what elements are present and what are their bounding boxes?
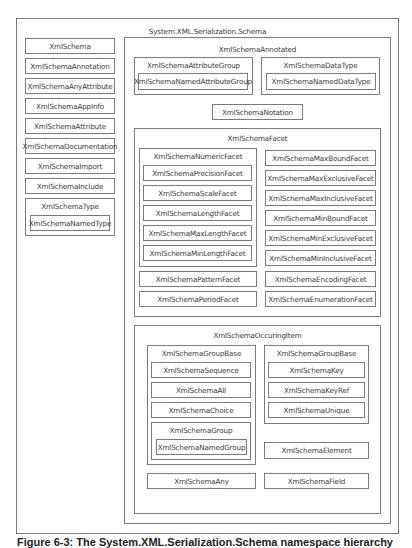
class-xmlschematype-title: XmlSchemaType bbox=[26, 202, 114, 211]
class-xmlschemagroupbase-left-title: XmlSchemaGroupBase bbox=[148, 349, 255, 358]
class-xmlschemanamedgroup: XmlSchemaNamedGroup bbox=[156, 439, 247, 455]
class-xmlschemaunique: XmlSchemaUnique bbox=[268, 402, 365, 418]
class-xmlschemafield: XmlSchemaField bbox=[264, 473, 369, 489]
class-xmlschemaattribute: XmlSchemaAttribute bbox=[25, 118, 115, 134]
class-xmlschemaany: XmlSchemaAny bbox=[147, 473, 256, 489]
class-xmlschemaannotated-title: XmlSchemaAnnotated bbox=[125, 45, 390, 54]
class-xmlschemanameddatatype: XmlSchemaNamedDataType bbox=[266, 73, 376, 90]
class-xmlschemamininclusivefacet: XmlSchemaMinInclusiveFacet bbox=[265, 250, 376, 266]
class-xmlschemaappinfo: XmlSchemaAppInfo bbox=[25, 98, 115, 114]
class-xmlschemamaxlengthfacet: XmlSchemaMaxLengthFacet bbox=[143, 225, 252, 241]
class-xmlschemagroupbase-right-title: XmlSchemaGroupBase bbox=[265, 349, 368, 358]
class-xmlschemagroup-title: XmlSchemaGroup bbox=[152, 426, 250, 435]
class-xmlschemanamedtype: XmlSchemaNamedType bbox=[30, 215, 110, 231]
root-namespace-title: System.XML.Serialization.Schema bbox=[17, 27, 398, 36]
class-xmlschemanumericfacet-title: XmlSchemaNumericFacet bbox=[140, 152, 256, 161]
class-xmlschemanamedattributegroup: XmlSchemaNamedAttributeGroup bbox=[138, 73, 248, 90]
class-xmlschemaprecisionfacet: XmlSchemaPrecisionFacet bbox=[143, 165, 252, 181]
class-xmlschemaanyattribute: XmlSchemaAnyAttribute bbox=[25, 78, 115, 94]
class-xmlschemaperiodfacet: XmlSchemaPeriodFacet bbox=[139, 291, 257, 307]
class-xmlschemaencodingfacet: XmlSchemaEncodingFacet bbox=[265, 271, 376, 287]
class-xmlschemaannotation: XmlSchemaAnnotation bbox=[25, 58, 115, 74]
class-xmlschemadatatype-title: XmlSchemaDataType bbox=[262, 61, 379, 70]
class-xmlschemamaxexclusivefacet: XmlSchemaMaxExclusiveFacet bbox=[265, 170, 376, 186]
class-xmlschemaall: XmlSchemaAll bbox=[151, 382, 251, 398]
class-xmlschemaimport: XmlSchemaImport bbox=[25, 158, 115, 174]
class-xmlschemalengthfacet: XmlSchemaLengthFacet bbox=[143, 205, 252, 221]
class-xmlschemaminboundfacet: XmlSchemaMinBoundFacet bbox=[265, 210, 376, 226]
class-xmlschemamaxinclusivefacet: XmlSchemaMaxInclusiveFacet bbox=[265, 190, 376, 206]
class-xmlschemaminlengthfacet: XmlSchemaMinLengthFacet bbox=[143, 245, 252, 261]
class-xmlschemaelement: XmlSchemaElement bbox=[264, 442, 369, 459]
figure-caption: Figure 6-3: The System.XML.Serialization… bbox=[17, 536, 393, 548]
class-xmlschemamaxboundfacet: XmlSchemaMaxBoundFacet bbox=[265, 150, 376, 166]
class-xmlschemasequence: XmlSchemaSequence bbox=[151, 362, 251, 378]
class-xmlschemafacet-title: XmlSchemaFacet bbox=[135, 134, 380, 143]
class-xmlschemakey: XmlSchemaKey bbox=[268, 362, 365, 378]
class-xmlschemaoccuringitem-title: XmlSchemaOccuringItem bbox=[135, 331, 380, 340]
class-xmlschema: XmlSchema bbox=[25, 38, 115, 54]
class-xmlschemapatternfacet: XmlSchemaPatternFacet bbox=[139, 271, 257, 287]
class-xmlschemakeyref: XmlSchemaKeyRef bbox=[268, 382, 365, 398]
class-xmlschemaattributegroup-title: XmlSchemaAttributeGroup bbox=[135, 61, 252, 70]
class-xmlschemainclude: XmlSchemaInclude bbox=[25, 178, 115, 194]
class-xmlschemascalefacet: XmlSchemaScaleFacet bbox=[143, 185, 252, 201]
class-xmlschemadocumentation: XmlSchemaDocumentation bbox=[25, 138, 115, 154]
class-xmlschemaenumerationfacet: XmlSchemaEnumerationFacet bbox=[265, 291, 376, 307]
class-xmlschemachoice: XmlSchemaChoice bbox=[151, 402, 251, 418]
class-xmlschemanotation: XmlSchemaNotation bbox=[212, 104, 303, 120]
class-xmlschemaminexclusivefacet: XmlSchemaMinExclusiveFacet bbox=[265, 230, 376, 246]
